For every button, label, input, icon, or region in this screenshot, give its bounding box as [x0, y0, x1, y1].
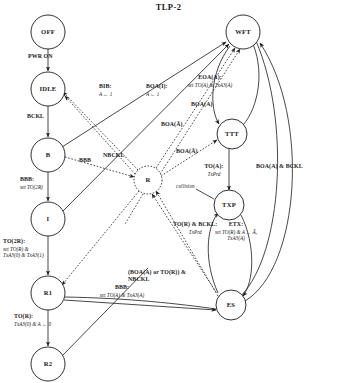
node-b[interactable]: B [31, 138, 65, 172]
edge-label-boa-i-wft: BOA(I): A ← 1 [146, 83, 168, 97]
edge-label-boa-abar-lo: BOA(Ā) [176, 148, 198, 156]
edge-label-tor-r1-r2: TO(R): TxA3(0) & A ← 0 [14, 313, 51, 327]
node-r[interactable]: R [134, 166, 162, 194]
node-r1[interactable]: R1 [31, 276, 65, 310]
edge-label-to2r-i-r1: TO(2R): set TO(R) & TxA3(0) & TxA3(1) [3, 238, 44, 259]
node-r1-label: R1 [44, 289, 52, 296]
edge-r-to-wft-alt [160, 49, 240, 174]
node-r2-label: R2 [44, 360, 53, 367]
node-idle-label: IDLE [40, 85, 57, 92]
node-ttt[interactable]: TTT [217, 119, 247, 149]
node-b-label: B [46, 151, 51, 158]
edge-r1-to-es [64, 300, 216, 310]
edge-label-nbckl-r: NBCKL [103, 152, 124, 160]
node-txp[interactable]: TXP [214, 190, 244, 220]
edge-r-self-lower [125, 194, 143, 224]
node-r-label: R [146, 176, 151, 183]
node-r2[interactable]: R2 [31, 347, 65, 381]
edge-r1-to-es-curve [63, 297, 216, 309]
edge-label-bib-wft: BIB: A ← 1 [99, 83, 112, 97]
edge-label-boa-a-bckl: BOA(A) & BCKL [256, 163, 303, 171]
edge-label-bckl-idle-b: BCKL [27, 113, 44, 121]
edge-label-boa-tor-nbckl: (BOA(A) or TO(R)) & NBCKL [128, 261, 186, 284]
edge-label-pwr-on: PWR ON [28, 53, 53, 61]
edge-label-collision: collision [176, 183, 195, 190]
node-off-label: OFF [41, 28, 55, 35]
node-es[interactable]: ES [216, 290, 246, 320]
edge-b-to-wft [62, 42, 226, 147]
edge-label-boa-a-wft: BOA(A) [191, 101, 213, 109]
state-diagram-page: TLP-2 [0, 0, 337, 383]
node-txp-label: TXP [222, 201, 236, 208]
node-es-label: ES [227, 301, 236, 308]
node-wft[interactable]: WFT [226, 15, 260, 49]
node-ttt-label: TTT [225, 130, 239, 137]
edge-label-boa-abar-up: BOA(Ā) [161, 121, 183, 129]
edge-r-to-idle [65, 96, 135, 174]
node-i[interactable]: I [31, 202, 65, 236]
node-i-label: I [47, 215, 50, 222]
edge-label-bbb-b-out: BBB [79, 157, 91, 165]
edge-label-bbb-b-i: BBB: set TO(2R) [20, 176, 43, 190]
edge-r-to-idle-2 [63, 92, 138, 170]
node-idle[interactable]: IDLE [31, 72, 65, 106]
node-off[interactable]: OFF [31, 15, 65, 49]
edge-collision-into-txp [196, 189, 214, 199]
node-wft-label: WFT [235, 28, 251, 35]
